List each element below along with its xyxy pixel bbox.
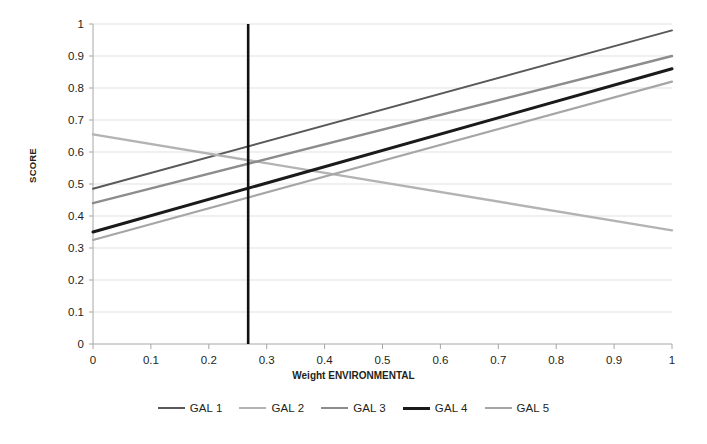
- x-tick-label: 0: [90, 354, 96, 366]
- legend-line-swatch: [485, 407, 512, 409]
- y-tick-labels: 00.10.20.30.40.50.60.70.80.91: [68, 18, 85, 350]
- x-tick-label: 0.3: [259, 354, 275, 366]
- legend-item-gal-2[interactable]: GAL 2: [239, 402, 304, 414]
- x-tick-label: 0.5: [375, 354, 391, 366]
- series-line-gal-3: [93, 56, 672, 203]
- legend-item-gal-1[interactable]: GAL 1: [158, 402, 223, 414]
- x-tick-label: 0.1: [143, 354, 159, 366]
- series-lines: [93, 30, 672, 240]
- y-tick-label: 0.4: [68, 210, 85, 222]
- y-tick-label: 0.1: [68, 306, 84, 318]
- y-tick-marks: [89, 24, 93, 344]
- y-tick-label: 0.5: [68, 178, 84, 190]
- gridlines: [93, 24, 672, 312]
- y-tick-label: 0.2: [68, 274, 84, 286]
- legend-item-gal-3[interactable]: GAL 3: [321, 402, 386, 414]
- legend-label: GAL 4: [435, 402, 468, 414]
- y-tick-label: 0.3: [68, 242, 84, 254]
- y-axis-title: SCORE: [27, 131, 38, 201]
- x-tick-label: 0.6: [432, 354, 448, 366]
- legend-label: GAL 1: [190, 402, 223, 414]
- y-tick-label: 0: [78, 338, 84, 350]
- y-tick-label: 0.8: [68, 82, 84, 94]
- legend-label: GAL 2: [271, 402, 304, 414]
- series-line-gal-1: [93, 30, 672, 188]
- x-tick-labels: 00.10.20.30.40.50.60.70.80.91: [90, 354, 675, 366]
- line-chart-svg: 00.10.20.30.40.50.60.70.80.91 00.10.20.3…: [0, 0, 707, 394]
- x-tick-marks: [93, 344, 672, 349]
- legend-label: GAL 3: [353, 402, 386, 414]
- x-tick-label: 0.8: [548, 354, 564, 366]
- legend-line-swatch: [403, 407, 430, 410]
- y-tick-label: 0.6: [68, 146, 84, 158]
- x-tick-label: 0.4: [317, 354, 334, 366]
- y-tick-label: 1: [78, 18, 84, 30]
- x-tick-label: 1: [669, 354, 675, 366]
- x-tick-label: 0.2: [201, 354, 217, 366]
- legend-item-gal-5[interactable]: GAL 5: [485, 402, 550, 414]
- y-tick-label: 0.7: [68, 114, 84, 126]
- x-tick-label: 0.7: [490, 354, 506, 366]
- y-tick-label: 0.9: [68, 50, 84, 62]
- legend-item-gal-4[interactable]: GAL 4: [403, 402, 468, 414]
- legend-line-swatch: [158, 407, 185, 409]
- chart-legend: GAL 1GAL 2GAL 3GAL 4GAL 5: [0, 402, 707, 414]
- legend-line-swatch: [321, 407, 348, 409]
- legend-line-swatch: [239, 407, 266, 409]
- chart-container: 00.10.20.30.40.50.60.70.80.91 00.10.20.3…: [0, 0, 707, 444]
- x-tick-label: 0.9: [606, 354, 622, 366]
- legend-label: GAL 5: [517, 402, 550, 414]
- series-line-gal-4: [93, 69, 672, 232]
- x-axis-title: Weight ENVIRONMENTAL: [0, 370, 707, 381]
- plot-area: 00.10.20.30.40.50.60.70.80.91 00.10.20.3…: [0, 0, 707, 394]
